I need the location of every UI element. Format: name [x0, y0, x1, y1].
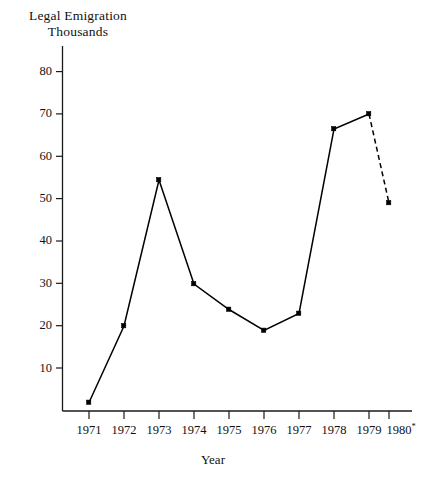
data-point-1971 [87, 400, 91, 404]
y-tick-label-80: 80 [18, 65, 52, 78]
x-tick-marks [89, 411, 389, 419]
y-tick-marks [56, 72, 63, 368]
y-tick-label-30: 30 [18, 277, 52, 290]
data-point-1973 [157, 178, 161, 182]
data-line-solid-segment [89, 114, 369, 403]
data-point-1974 [192, 282, 196, 286]
x-axis-title: Year [0, 452, 426, 468]
data-point-1972 [122, 324, 126, 328]
legal-emigration-line-chart: Legal Emigration Thousands [0, 0, 426, 477]
x-tick-label-1980: 1980* [379, 424, 423, 437]
x-tick-label-1980-year: 1980 [386, 423, 411, 437]
y-tick-label-20: 20 [18, 319, 52, 332]
y-tick-label-60: 60 [18, 150, 52, 163]
y-tick-label-40: 40 [18, 234, 52, 247]
data-point-1976 [262, 328, 266, 332]
footnote-asterisk: * [411, 421, 415, 431]
y-tick-label-50: 50 [18, 192, 52, 205]
data-line-dashed-projection [369, 114, 389, 203]
data-point-1975 [227, 307, 231, 311]
data-point-1978 [332, 127, 336, 131]
y-tick-label-70: 70 [18, 107, 52, 120]
y-tick-label-10: 10 [18, 362, 52, 375]
data-point-markers [87, 112, 391, 405]
data-point-1979 [367, 112, 371, 116]
plot-area [0, 0, 426, 477]
data-point-1977 [297, 311, 301, 315]
data-point-1980 [387, 201, 391, 205]
